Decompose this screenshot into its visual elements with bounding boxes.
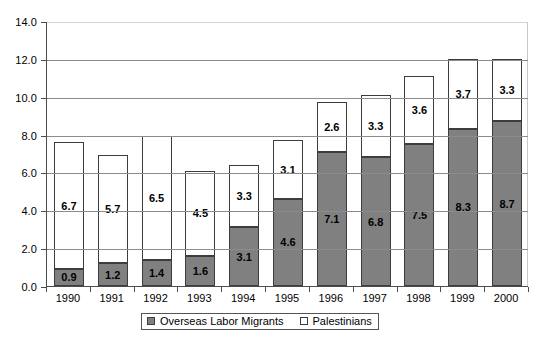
legend-label: Overseas Labor Migrants <box>160 316 284 327</box>
bar-segment-overseas-labor-migrants[interactable] <box>404 144 434 286</box>
bar-segment-overseas-labor-migrants[interactable] <box>98 263 128 286</box>
y-axis-tick-label: 12.0 <box>15 54 37 66</box>
y-axis-tick-label: 4.0 <box>21 205 37 217</box>
bar-segment-overseas-labor-migrants[interactable] <box>317 152 347 286</box>
stacked-bar-chart: 0.02.04.06.08.010.012.014.0 0.96.71.25.7… <box>0 0 544 343</box>
gridline <box>47 22 528 23</box>
gridline <box>47 136 528 137</box>
y-axis-tick-label: 6.0 <box>21 167 37 179</box>
bar-segment-palestinians[interactable] <box>404 76 434 144</box>
y-axis-tick-label: 14.0 <box>15 16 37 28</box>
y-axis-tick-label: 2.0 <box>21 243 37 255</box>
legend-swatch-icon <box>147 317 155 325</box>
legend-item-overseas-labor-migrants: Overseas Labor Migrants <box>147 316 284 327</box>
bar-group[interactable]: 6.83.3 <box>361 22 391 286</box>
y-axis-tick-label: 10.0 <box>15 92 37 104</box>
bar-segment-overseas-labor-migrants[interactable] <box>361 157 391 286</box>
bar-segment-palestinians[interactable] <box>273 140 303 199</box>
bar-group[interactable]: 4.63.1 <box>273 22 303 286</box>
bar-segment-overseas-labor-migrants[interactable] <box>229 227 259 286</box>
bar-group[interactable]: 3.13.3 <box>229 22 259 286</box>
plot-area: 0.96.71.25.71.46.51.64.53.13.34.63.17.12… <box>46 22 528 287</box>
x-axis-tick-label: 2000 <box>494 292 518 304</box>
x-axis-tick-label: 1995 <box>275 292 299 304</box>
gridline <box>47 249 528 250</box>
chart-legend: Overseas Labor Migrants Palestinians <box>141 313 379 330</box>
bar-segment-palestinians[interactable] <box>448 59 478 129</box>
legend-swatch-icon <box>300 317 308 325</box>
x-axis-tick <box>528 287 529 292</box>
bar-segment-palestinians[interactable] <box>98 155 128 263</box>
bar-segment-overseas-labor-migrants[interactable] <box>492 121 522 286</box>
bar-group[interactable]: 1.64.5 <box>185 22 215 286</box>
x-axis-tick-label: 1992 <box>143 292 167 304</box>
bar-segment-palestinians[interactable] <box>317 102 347 151</box>
x-axis-tick-label: 1993 <box>187 292 211 304</box>
bar-segment-overseas-labor-migrants[interactable] <box>142 260 172 287</box>
bar-group[interactable]: 7.53.6 <box>404 22 434 286</box>
x-axis-tick-label: 1999 <box>450 292 474 304</box>
x-axis-tick-label: 1998 <box>406 292 430 304</box>
bar-segment-overseas-labor-migrants[interactable] <box>448 129 478 286</box>
y-axis-tick-label: 8.0 <box>21 130 37 142</box>
x-axis-tick-label: 1990 <box>56 292 80 304</box>
gridline <box>47 60 528 61</box>
bar-segment-overseas-labor-migrants[interactable] <box>54 269 84 286</box>
x-axis-tick-label: 1996 <box>319 292 343 304</box>
y-axis: 0.02.04.06.08.010.012.014.0 <box>0 0 46 343</box>
bar-group[interactable]: 8.73.3 <box>492 22 522 286</box>
bars-layer: 0.96.71.25.71.46.51.64.53.13.34.63.17.12… <box>47 22 528 286</box>
bar-segment-palestinians[interactable] <box>492 59 522 121</box>
gridline <box>47 98 528 99</box>
x-axis-tick-label: 1997 <box>362 292 386 304</box>
y-axis-tick-label: 0.0 <box>21 281 37 293</box>
bar-segment-overseas-labor-migrants[interactable] <box>185 256 215 286</box>
legend-label: Palestinians <box>313 316 372 327</box>
gridline <box>47 173 528 174</box>
x-axis-tick-label: 1991 <box>99 292 123 304</box>
bar-group[interactable]: 8.33.7 <box>448 22 478 286</box>
x-axis-labels: 1990199119921993199419951996199719981999… <box>46 292 528 310</box>
bar-group[interactable]: 7.12.6 <box>317 22 347 286</box>
x-axis-tick-label: 1994 <box>231 292 255 304</box>
bar-group[interactable]: 0.96.7 <box>54 22 84 286</box>
bar-segment-palestinians[interactable] <box>361 95 391 157</box>
gridline <box>47 211 528 212</box>
bar-segment-palestinians[interactable] <box>142 136 172 259</box>
bar-group[interactable]: 1.25.7 <box>98 22 128 286</box>
bar-segment-palestinians[interactable] <box>185 171 215 256</box>
legend-item-palestinians: Palestinians <box>300 316 372 327</box>
bar-group[interactable]: 1.46.5 <box>142 22 172 286</box>
